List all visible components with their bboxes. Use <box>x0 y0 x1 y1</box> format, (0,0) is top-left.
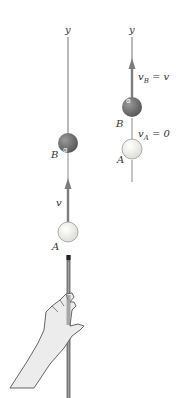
left-y-axis-label: y <box>64 24 71 35</box>
left-ball-a-label: A <box>51 241 59 252</box>
right-y-axis-label: y <box>128 24 135 35</box>
right-ball-a <box>122 139 142 159</box>
right-ball-b <box>122 97 142 117</box>
left-ball-b-label: B <box>50 149 58 160</box>
right-ball-b-label: B <box>115 118 123 129</box>
left-velocity-arrow <box>65 178 72 222</box>
ball-number-icon: ɞ <box>126 97 131 105</box>
right-panel: y vB = v ɞ B vA = 0 A <box>115 24 170 182</box>
collision-diagram: y v ɞ B A y vB = v <box>0 0 176 398</box>
hand-icon <box>10 293 84 388</box>
right-velocity-b-arrow <box>129 58 136 100</box>
left-panel: y v ɞ B A <box>50 24 78 252</box>
right-velocity-a-label: vA = 0 <box>138 128 170 142</box>
left-velocity-label: v <box>56 197 62 208</box>
right-velocity-b-label: vB = v <box>138 71 170 85</box>
right-ball-a-label: A <box>116 154 124 165</box>
left-ball-a <box>58 222 78 242</box>
left-ball-b <box>58 133 78 153</box>
ball-number-icon: ɞ <box>63 146 68 154</box>
